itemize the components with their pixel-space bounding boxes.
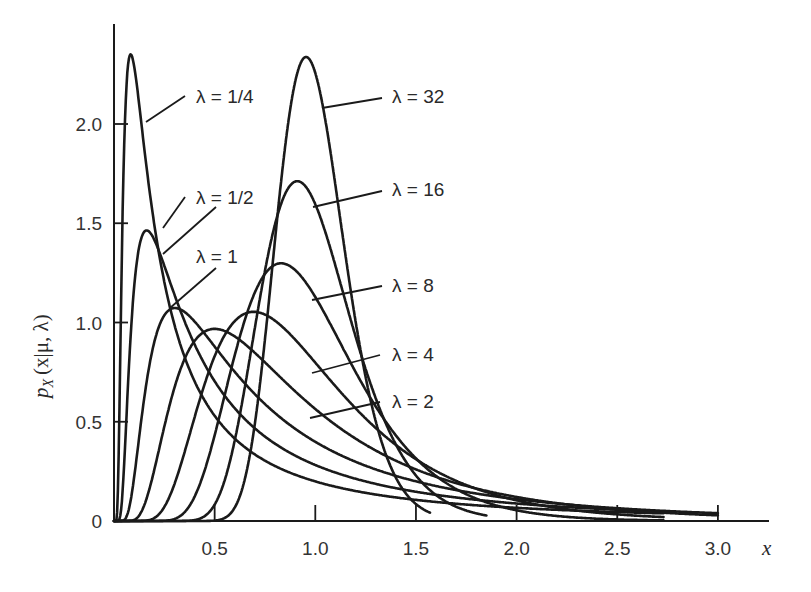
y-tick-label: 0 [91, 511, 102, 532]
curve-label-lambda-16: λ = 16 [392, 179, 444, 200]
x-tick-label: 1.0 [302, 538, 328, 559]
leader-line [170, 268, 216, 308]
y-tick-label: 2.0 [76, 114, 102, 135]
curve-label-lambda-half: λ = 1/2 [196, 187, 254, 208]
curve-label-lambda-32: λ = 32 [392, 86, 444, 107]
inverse-gaussian-chart: 0.51.01.52.02.53.0 00.51.01.52.0 λ = 1/4… [0, 0, 811, 592]
x-tick-label: 1.5 [403, 538, 429, 559]
curve--32 [114, 57, 430, 521]
y-axis-title: pX(x|μ, λ) [29, 314, 56, 400]
y-tick-label: 0.5 [76, 412, 102, 433]
leader-line [146, 96, 185, 122]
curve-label-lambda-2: λ = 2 [392, 391, 434, 412]
curve-label-lambda-quarter: λ = 1/4 [196, 86, 254, 107]
x-tick-label: 0.5 [201, 538, 227, 559]
curve-label-lambda-4: λ = 4 [392, 344, 434, 365]
leader-line [322, 98, 382, 108]
leader-line [310, 402, 380, 418]
svg-text:pX(x|μ, λ): pX(x|μ, λ) [29, 314, 56, 400]
x-tick-label: 2.0 [503, 538, 529, 559]
curve-label-lambda-1: λ = 1 [196, 246, 238, 267]
curve--1-2 [114, 231, 664, 522]
x-axis-title: x [761, 536, 772, 560]
y-tick-label: 1.0 [76, 313, 102, 334]
curve-label-lambda-8: λ = 8 [392, 275, 434, 296]
x-tick-label: 2.5 [604, 538, 630, 559]
leader-line [312, 286, 382, 300]
leader-line [312, 355, 380, 373]
x-tick-label: 3.0 [705, 538, 731, 559]
curve--8 [114, 263, 664, 521]
curve--1 [114, 308, 718, 521]
leader-line [313, 191, 382, 207]
y-axis-title-p: p [29, 388, 53, 401]
curve--1-4 [114, 54, 664, 521]
y-axis-title-subscript: X [41, 379, 56, 389]
y-axis-title-args: (x|μ, λ) [29, 314, 53, 375]
y-tick-label: 1.5 [76, 213, 102, 234]
leader-line [163, 197, 185, 228]
